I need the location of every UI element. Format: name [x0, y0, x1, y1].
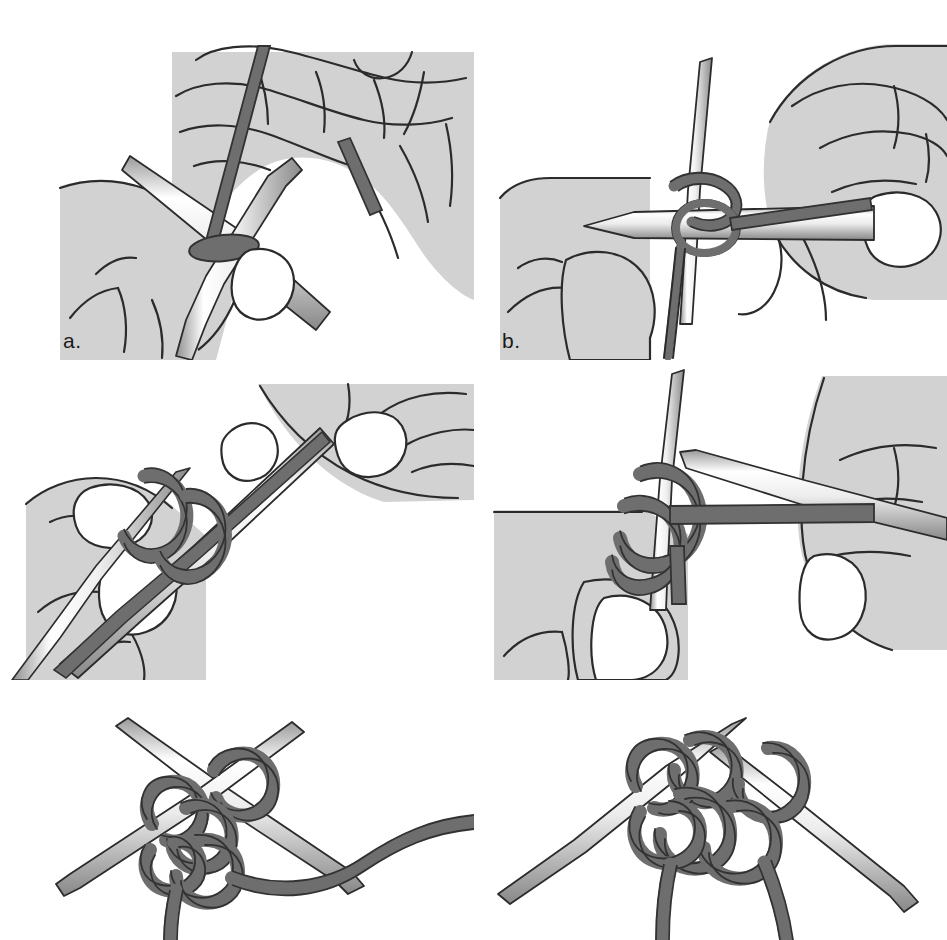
thumbnail-right [335, 412, 406, 477]
panel-c-artwork [12, 384, 474, 680]
panel-a-artwork [60, 46, 474, 360]
panel-c: c. [0, 360, 474, 680]
yarn-tail-a [656, 864, 677, 940]
panel-b: b. [474, 0, 947, 360]
panel-e: e. [0, 690, 474, 940]
yarn-tail-down [164, 890, 183, 940]
panel-a: a. [0, 0, 474, 360]
panel-f: f. [474, 690, 947, 940]
thumbnail-right [800, 554, 866, 639]
yarn-tail-b [758, 860, 793, 940]
illustration-sheet: a. [0, 0, 947, 940]
panel-b-artwork [500, 44, 947, 360]
thumbnail-upper [221, 423, 277, 481]
panel-f-artwork [498, 718, 918, 940]
needle-right-down [498, 718, 746, 904]
yarn-tail-down [670, 546, 686, 604]
panel-d: d. [474, 360, 947, 680]
thumbnail [232, 249, 294, 320]
panel-e-artwork [56, 718, 474, 940]
panel-a-label: a. [63, 330, 82, 351]
panel-b-label: b. [502, 330, 521, 351]
panel-d-artwork [494, 370, 947, 680]
needle-vertical [680, 58, 712, 324]
yarn-strand-horizontal [670, 504, 874, 524]
